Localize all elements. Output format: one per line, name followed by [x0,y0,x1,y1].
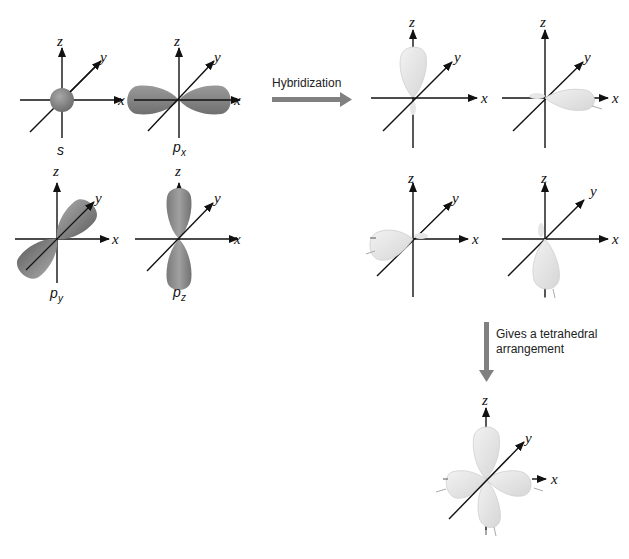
svg-text:x: x [471,231,479,247]
tetrahedral-label-line2: arrangement [496,342,564,357]
svg-text:y: y [212,190,221,206]
hybridization-arrow [272,92,352,107]
svg-text:y: y [452,49,461,65]
svg-text:x: x [611,231,619,247]
py-orbital-panel: z y x p y [12,163,119,304]
svg-text:z: z [174,163,181,179]
svg-text:x: x [233,92,241,108]
hybrid-orbital-4-panel: z y x [502,170,619,298]
svg-text:y: y [450,190,459,206]
hybrid-orbital-3-panel: z y x [366,170,479,297]
hybrid-orbital-2-panel: z y x [502,14,619,148]
svg-text:y: y [588,183,597,199]
svg-text:x: x [180,147,187,158]
svg-text:z: z [481,392,488,408]
svg-text:y: y [93,190,102,206]
svg-text:p: p [172,139,181,155]
s-orbital-label: s [57,142,64,158]
svg-text:y: y [57,293,64,304]
svg-text:p: p [49,285,58,301]
svg-text:x: x [480,90,488,106]
svg-text:x: x [611,90,619,106]
tetrahedral-arrow [479,322,494,382]
svg-text:y: y [582,49,591,65]
s-orbital-panel: z y x s [20,33,125,158]
svg-text:z: z [539,14,546,30]
tetrahedral-result-panel: z y x [436,392,558,536]
svg-text:y: y [98,49,107,65]
px-orbital-panel: z y x p x [127,33,241,158]
svg-text:y: y [212,49,221,65]
tetrahedral-label-line1: Gives a tetrahedral [496,327,597,342]
svg-text:x: x [550,471,558,487]
svg-text:x: x [233,231,241,247]
pz-orbital-panel: z y x p z [135,163,241,303]
svg-text:z: z [408,14,415,30]
svg-text:z: z [173,33,180,49]
svg-text:z: z [540,170,547,186]
svg-text:x: x [117,92,125,108]
hybridization-label: Hybridization [272,76,341,91]
svg-text:z: z [407,170,414,186]
svg-text:y: y [523,430,532,446]
svg-text:z: z [180,292,186,303]
hybrid-orbital-1-panel: z y x [371,14,488,148]
svg-text:z: z [56,33,63,49]
svg-text:p: p [172,284,181,300]
svg-text:x: x [111,231,119,247]
svg-text:z: z [52,163,59,179]
